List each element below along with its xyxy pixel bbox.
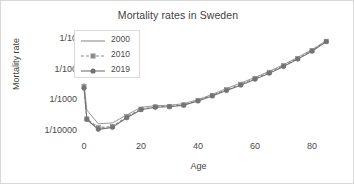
legend-item-2010[interactable]: 2010 [75, 46, 139, 61]
chart-figure: Mortality rates in Sweden Mortality rate… [0, 0, 354, 184]
data-point-marker [167, 105, 171, 109]
data-point-marker [153, 105, 157, 109]
data-point-marker [310, 49, 314, 53]
data-point-marker [210, 94, 214, 98]
legend-item-2000[interactable]: 2000 [75, 31, 139, 46]
data-point-marker [239, 83, 243, 87]
data-point-marker [182, 103, 186, 107]
legend-label: 2000 [111, 34, 130, 44]
legend-label: 2010 [111, 49, 130, 59]
data-point-marker [224, 88, 228, 92]
legend-swatch-icon [79, 33, 107, 45]
data-point-marker [110, 125, 114, 129]
data-point-marker [139, 107, 143, 111]
data-point-marker [281, 64, 285, 68]
data-point-marker [296, 57, 300, 61]
legend-label: 2019 [111, 64, 130, 74]
data-point-marker [125, 116, 129, 120]
plot-area [1, 1, 354, 184]
data-point-marker [267, 71, 271, 75]
data-point-marker [196, 99, 200, 103]
legend-swatch-icon [79, 63, 107, 75]
data-point-marker [96, 127, 100, 131]
data-point-marker [253, 77, 257, 81]
data-point-marker [82, 86, 86, 90]
chart-legend: 200020102019 [74, 30, 140, 78]
legend-item-2019[interactable]: 2019 [75, 61, 139, 76]
data-point-marker [85, 117, 89, 121]
data-point-marker [324, 39, 328, 43]
legend-swatch-icon [79, 48, 107, 60]
